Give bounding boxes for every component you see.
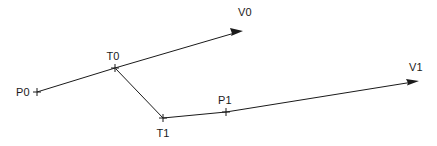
segment-p0-t0-v0 [37, 28, 243, 92]
vector-diagram-canvas: P0 T0 V0 T1 P1 V1 [0, 0, 437, 146]
label-t0: T0 [106, 50, 119, 62]
label-v1: V1 [409, 61, 423, 73]
line-t0-to-t1 [116, 69, 163, 118]
segment-t1-p1-v1 [163, 79, 419, 118]
v1-arrow-head-icon [406, 79, 419, 86]
v0-arrow-head-icon [230, 28, 243, 36]
diagram-svg: P0 T0 V0 T1 P1 V1 [0, 0, 437, 146]
point-marker-p1 [222, 108, 230, 116]
line-t1-to-v1 [163, 82, 413, 118]
label-v0: V0 [238, 6, 252, 18]
segment-t0-t1 [116, 69, 163, 118]
line-p0-to-v0 [37, 32, 238, 92]
point-marker-p0 [33, 88, 41, 96]
label-p0: P0 [16, 86, 30, 98]
label-t1: T1 [156, 127, 169, 139]
label-p1: P1 [218, 94, 232, 106]
